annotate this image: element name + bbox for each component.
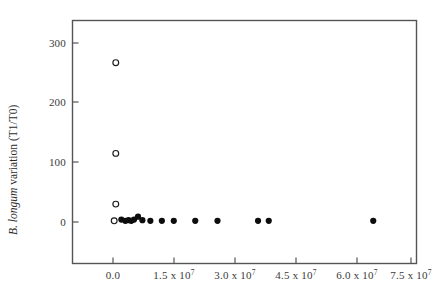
plot-canvas: B. longum variation (T1/T0) 300 200 100 … bbox=[0, 0, 439, 302]
data-point-open bbox=[113, 60, 119, 66]
y-axis-ticks: 300 200 100 0 bbox=[49, 37, 79, 228]
data-point-filled bbox=[139, 217, 145, 223]
data-point-filled bbox=[370, 218, 376, 224]
data-point-filled bbox=[147, 218, 153, 224]
x-axis-ticks: 0.0 1.5 x 107 3.0 x 107 4.5 x 107 6.0 x … bbox=[106, 258, 432, 282]
x-tick-label: 4.5 x 107 bbox=[275, 268, 316, 281]
y-tick-label: 200 bbox=[49, 96, 66, 108]
x-tick-label: 0.0 bbox=[106, 269, 121, 281]
y-tick-label: 100 bbox=[49, 156, 66, 168]
data-point-filled bbox=[192, 218, 198, 224]
data-point-open bbox=[113, 201, 119, 207]
data-point-filled bbox=[255, 218, 261, 224]
x-tick-label: 3.0 x 107 bbox=[214, 268, 255, 281]
data-point-filled bbox=[214, 218, 220, 224]
data-markers-layer bbox=[111, 60, 376, 224]
scatter-plot-figure: B. longum variation (T1/T0) 300 200 100 … bbox=[0, 0, 439, 302]
y-axis-title-italic: B. longum bbox=[7, 188, 20, 235]
svg-text:B. longum variation (T1/T0): B. longum variation (T1/T0) bbox=[7, 105, 20, 235]
y-axis-title: B. longum variation (T1/T0) bbox=[7, 105, 20, 235]
y-tick-label: 300 bbox=[49, 37, 66, 49]
x-tick-label: 7.5 x 107 bbox=[390, 268, 431, 281]
plot-frame bbox=[73, 21, 417, 264]
data-point-open bbox=[111, 218, 117, 224]
x-tick-label: 1.5 x 107 bbox=[153, 268, 194, 281]
y-axis-title-plain: variation (T1/T0) bbox=[7, 105, 20, 188]
data-point-filled bbox=[266, 218, 272, 224]
data-point-filled bbox=[159, 218, 165, 224]
x-tick-label: 6.0 x 107 bbox=[336, 268, 377, 281]
y-tick-label: 0 bbox=[60, 216, 66, 228]
data-point-filled bbox=[171, 218, 177, 224]
data-point-open bbox=[113, 150, 119, 156]
